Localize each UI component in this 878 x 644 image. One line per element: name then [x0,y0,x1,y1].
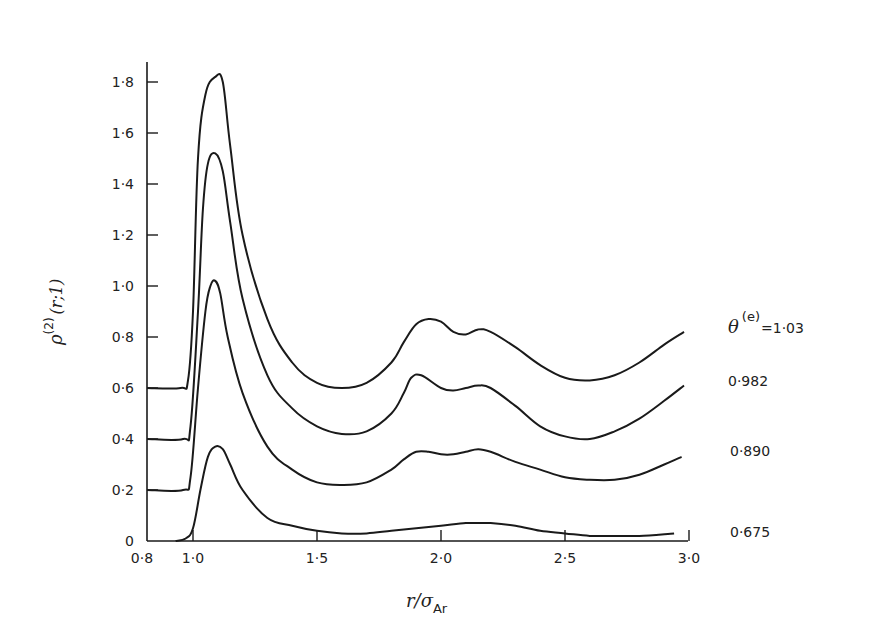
theta-symbol: θ [728,316,739,337]
ylabel-main: ρ [45,334,66,346]
series-label-0675: 0·675 [730,524,770,540]
y-tick-label: 0·4 [112,431,134,447]
y-tick-label: 1·0 [112,278,134,294]
y-tick-label: 0 [125,533,134,549]
y-tick-label: 1·6 [112,125,134,141]
y-tick-label: 1·2 [112,227,134,243]
y-tick-label: 0·2 [112,482,134,498]
x-axis-title: r/σAr [406,590,448,616]
svg-text:r/σAr: r/σAr [406,590,448,616]
chart: 00·20·40·60·81·01·21·41·61·8 0·81·01·52·… [0,0,878,644]
curves [147,74,684,541]
series-label-0890: 0·890 [730,443,770,459]
curve-0982 [147,153,684,440]
y-axis-title: ρ(2)(r;1) [42,279,66,346]
y-tick-label: 1·8 [112,74,134,90]
theta-sup: (e) [742,309,760,324]
x-tick-label: 2·0 [430,550,452,566]
y-tick-label: 1·4 [112,176,134,192]
y-ticks: 00·20·40·60·81·01·21·41·61·8 [112,74,158,549]
y-tick-label: 0·8 [112,329,134,345]
svg-text:θ(e)=1·03: θ(e)=1·03 [728,309,804,337]
ylabel-sup: (2) [42,317,56,334]
series-label-0982: 0·982 [728,373,768,389]
curve-0675 [176,446,674,541]
theta-value: =1·03 [761,320,804,336]
x-tick-label: 3·0 [678,550,700,566]
xlabel-sub: Ar [433,601,448,616]
y-tick-label: 0·6 [112,380,134,396]
x-tick-label: 1·0 [182,550,204,566]
series-label-theta: θ(e)=1·03 [728,309,804,337]
x-tick-label: 0·8 [131,550,153,566]
xlabel-main: r/σ [406,590,434,611]
x-tick-label: 1·5 [306,550,328,566]
curve-103 [147,74,684,389]
ylabel-args: (r;1) [47,279,66,315]
svg-text:ρ(2)(r;1): ρ(2)(r;1) [42,279,66,346]
x-tick-label: 2·5 [554,550,576,566]
